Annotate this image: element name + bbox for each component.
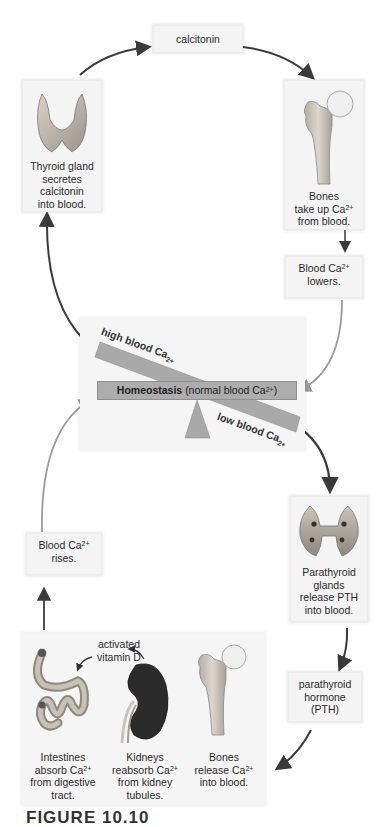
pth-box: parathyroid hormone (PTH): [288, 672, 362, 722]
intestines-icon: [30, 645, 100, 735]
parathyroid-box: Parathyroid glands release PTH into bloo…: [290, 496, 368, 622]
rises-sup: 2+: [82, 540, 90, 547]
parathyroid-line-1: Parathyroid: [290, 566, 368, 579]
pth-line-3: (PTH): [288, 703, 362, 716]
kidneys-caption: Kidneys reabsorb Ca2+ from kidney tubule…: [106, 751, 184, 801]
femur-bone-icon: [194, 643, 254, 743]
rises-line-1: Blood Ca: [38, 539, 81, 551]
homeostasis-bar: Homeostasis (normal blood Ca2+): [97, 381, 297, 400]
kidneys-line-1: Kidneys: [106, 751, 184, 764]
bones-release-caption: Bones release Ca2+ into blood.: [188, 751, 260, 789]
intestines-line-3: from digestive: [24, 776, 102, 789]
parathyroid-glands-icon: [296, 502, 362, 558]
bones-release-sup: 2+: [245, 765, 253, 772]
intestines-line-1: Intestines: [24, 751, 102, 764]
pth-line-1: parathyroid: [288, 678, 362, 691]
homeostasis-sup: 2+: [266, 386, 274, 393]
pth-line-2: hormone: [288, 691, 362, 704]
homeostasis-end: ): [274, 384, 278, 396]
kidneys-sup: 2+: [170, 765, 178, 772]
targets-panel: activated vitamin D Intes: [22, 633, 265, 805]
bones-release-line-2: release Ca: [195, 764, 246, 776]
parathyroid-line-4: into blood.: [290, 604, 368, 617]
parathyroid-line-3: release PTH: [290, 591, 368, 604]
kidneys-line-3: from kidney: [106, 776, 184, 789]
seesaw-fulcrum-icon: [185, 400, 210, 438]
parathyroid-line-2: glands: [290, 579, 368, 592]
intestines-caption: Intestines absorb Ca2+ from digestive tr…: [24, 751, 102, 801]
kidney-icon: [114, 661, 174, 746]
kidneys-line-4: tubules.: [106, 789, 184, 802]
bones-release-line-1: Bones: [188, 751, 260, 764]
rises-line-2: rises.: [26, 552, 102, 565]
homeostasis-bold: Homeostasis: [117, 384, 182, 396]
intestines-sup: 2+: [83, 765, 91, 772]
kidneys-line-2: reabsorb Ca: [112, 764, 170, 776]
blood-rises-box: Blood Ca2+ rises.: [26, 533, 102, 575]
intestines-line-4: tract.: [24, 789, 102, 802]
bones-release-line-3: into blood.: [188, 776, 260, 789]
intestines-line-2: absorb Ca: [35, 764, 83, 776]
figure-caption: FIGURE 10.10: [26, 808, 150, 827]
homeostasis-rest: (normal blood Ca: [185, 384, 266, 396]
